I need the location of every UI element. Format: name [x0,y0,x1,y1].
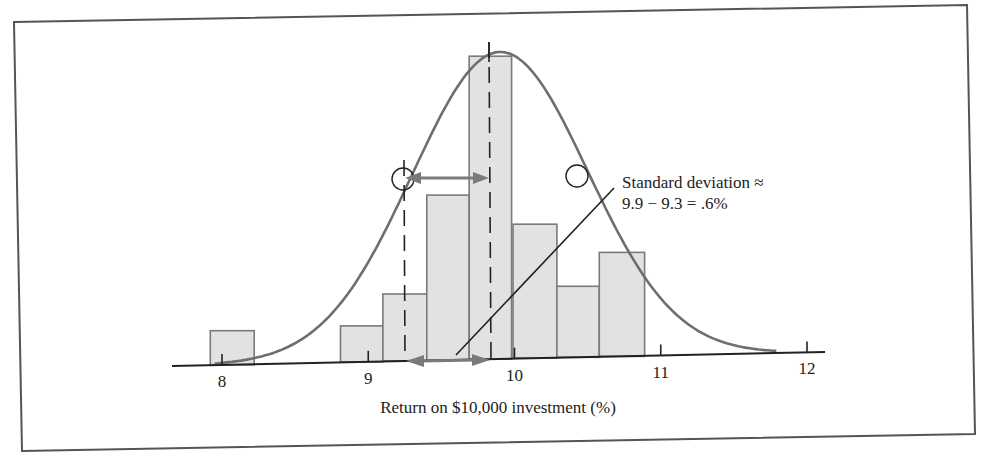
annotation-line-2: 9.9 − 9.3 = .6% [622,194,728,213]
histogram-bar [341,326,383,362]
x-tick-label: 10 [506,366,523,385]
histogram-bar [557,286,599,357]
x-tick-label: 9 [364,369,373,388]
annotation-line-1: Standard deviation ≈ [622,173,764,192]
x-axis-title: Return on $10,000 investment (%) [380,398,616,417]
x-tick-label: 12 [799,359,816,378]
upper-sd-double-arrow [405,172,489,184]
histogram-bar [513,224,557,358]
histogram-chart: 89101112 Standard deviation ≈ 9.9 − 9.3 … [0,0,984,454]
x-tick-label: 11 [653,363,669,382]
x-tick-label: 8 [218,372,227,391]
histogram-bar [427,195,469,360]
right-inflection-circle [566,165,588,187]
histogram-bars [210,56,644,365]
